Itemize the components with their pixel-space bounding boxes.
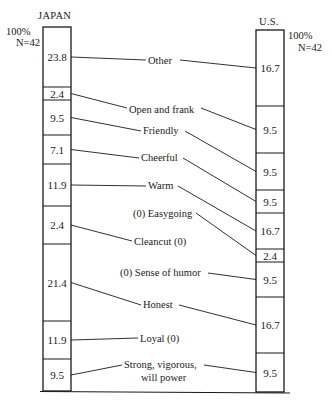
japan-n-label: N=42 (16, 37, 40, 49)
us-segment-value: 9.5 (263, 367, 277, 379)
us-segment-value: 9.5 (263, 166, 277, 178)
us-segment-value: 16.7 (260, 319, 280, 331)
us-total-label: 100% (288, 30, 313, 42)
us-segment-value: 9.5 (263, 124, 277, 136)
connector-japan (71, 118, 141, 132)
us-segment-value: 2.4 (263, 250, 277, 262)
connector-us (196, 213, 256, 256)
connector-japan (71, 185, 146, 186)
trait-label-cheerful: Cheerful (141, 152, 178, 164)
japan-segment-value: 9.5 (50, 112, 64, 124)
connector-japan (71, 225, 132, 241)
trait-label-friendly: Friendly (143, 125, 179, 137)
connector-us (208, 273, 256, 280)
trait-label-warm: Warm (148, 180, 173, 192)
connector-japan (71, 365, 122, 375)
trait-label-sense-of-humor: (0) Sense of humor (120, 267, 201, 279)
us-segment-value: 16.7 (260, 62, 280, 74)
trait-label-easygoing: (0) Easygoing (133, 208, 192, 220)
japan-segment-value: 2.4 (50, 219, 64, 231)
us-column-title: U.S. (259, 16, 279, 28)
connector-japan (71, 150, 139, 159)
connector-us (180, 60, 256, 68)
trait-label-strong-line1: Strong, vigorous, (124, 359, 197, 371)
us-n-label: N=42 (298, 42, 322, 54)
japan-segment-value: 23.8 (47, 51, 67, 63)
connector-us (201, 108, 256, 130)
connector-japan (71, 94, 127, 109)
us-column: 16.79.59.59.516.72.49.516.79.5 (256, 30, 284, 392)
japan-segment-value: 11.9 (48, 179, 67, 191)
us-segment-value: 16.7 (260, 225, 280, 237)
trait-label-loyal: Loyal (0) (140, 333, 179, 345)
trait-label-honest: Honest (143, 299, 173, 311)
japan-segment-value: 11.9 (48, 334, 67, 346)
us-column-frame (256, 30, 284, 392)
connector-us (204, 365, 256, 373)
us-segment-value: 9.5 (263, 196, 277, 208)
trait-label-cleancut: Cleancut (0) (134, 236, 186, 248)
japan-column: 23.82.49.57.111.92.421.411.99.5 (43, 27, 71, 391)
trait-label-strong-line2: will power (141, 372, 186, 384)
connector-japan (71, 57, 146, 60)
japan-segment-value: 21.4 (47, 277, 67, 289)
japan-segment-value: 9.5 (50, 369, 64, 381)
japan-column-title: JAPAN (38, 10, 71, 22)
trait-label-open-and-frank: Open and frank (129, 104, 194, 116)
trait-label-other: Other (148, 55, 172, 67)
us-segment-value: 9.5 (263, 274, 277, 286)
baseline (40, 392, 290, 394)
japan-segment-value: 7.1 (50, 144, 64, 156)
connector-us (179, 305, 256, 325)
connector-japan (71, 338, 138, 340)
connector-japan (71, 283, 141, 306)
japan-segment-value: 2.4 (50, 88, 64, 100)
